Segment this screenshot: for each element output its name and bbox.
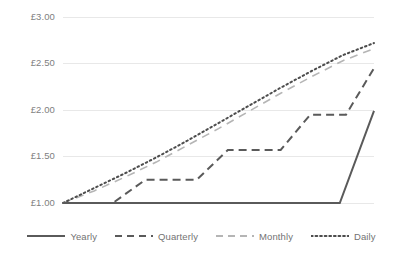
legend-swatch-line-icon [115,231,153,241]
legend-label: Daily [354,231,376,242]
legend-swatch-line-icon [216,231,254,241]
series-container [63,17,374,203]
legend-item-daily[interactable]: Daily [311,231,376,242]
line-chart: £3.00 £2.50 £2.00 £1.50 £1.00 Yearly [0,0,403,255]
legend-label: Monthly [259,231,293,242]
y-tick-label: £3.00 [1,12,55,22]
y-axis: £3.00 £2.50 £2.00 £1.50 £1.00 [0,0,60,220]
legend-item-monthly[interactable]: Monthly [216,231,293,242]
legend-label: Quarterly [158,231,198,242]
plot-area [63,17,374,203]
y-tick-label: £2.50 [1,58,55,68]
series-line-yearly [63,111,374,203]
y-tick-label: £2.00 [1,105,55,115]
legend-label: Yearly [70,231,97,242]
legend-item-yearly[interactable]: Yearly [27,231,97,242]
legend-swatch-line-icon [311,231,349,241]
y-tick-label: £1.00 [1,198,55,208]
y-tick-label: £1.50 [1,151,55,161]
chart-legend: Yearly Quarterly Monthly Daily [0,224,403,248]
series-line-daily [63,43,374,203]
legend-item-quarterly[interactable]: Quarterly [115,231,198,242]
series-line-quarterly [63,68,374,203]
legend-swatch-line-icon [27,231,65,241]
